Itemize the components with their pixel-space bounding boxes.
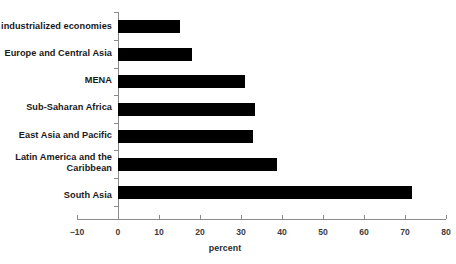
bar-south-asia [118,186,412,199]
y-axis-tick [114,178,118,179]
x-axis-tick [323,215,324,219]
x-axis-tick-label: 80 [426,227,456,237]
x-axis-tick [200,215,201,219]
y-axis-tick [114,95,118,96]
x-axis-tick-label: 70 [385,227,425,237]
x-axis-title: percent [0,243,450,253]
y-axis-tick [114,12,118,13]
y-axis-tick [114,123,118,124]
x-axis-tick-label: 10 [139,227,179,237]
x-axis-tick-label: 0 [98,227,138,237]
x-axis-tick-label: −10 [57,227,97,237]
x-axis-tick-label: 40 [262,227,302,237]
bar-latin-america-and-the-caribbean [118,158,277,171]
y-axis-tick [114,40,118,41]
y-axis-tick [114,150,118,151]
y-axis-tick [114,206,118,207]
x-axis-tick-label: 50 [303,227,343,237]
y-axis-tick [114,68,118,69]
x-axis-tick [364,215,365,219]
x-axis-tick [118,215,119,219]
bar-sub-saharan-africa [118,103,255,116]
bar-europe-and-central-asia [118,48,192,61]
bar-east-asia-and-pacific [118,130,253,143]
bar-mena [118,75,245,88]
x-axis-tick [241,215,242,219]
x-axis-tick [446,215,447,219]
x-axis-tick [405,215,406,219]
x-axis-line [77,219,446,220]
x-axis-tick-label: 30 [221,227,261,237]
x-axis-tick-label: 60 [344,227,384,237]
bar-industrialized-economies [118,20,180,33]
x-axis-tick-label: 20 [180,227,220,237]
x-axis-tick [159,215,160,219]
x-axis-tick [282,215,283,219]
x-axis-tick [77,215,78,219]
